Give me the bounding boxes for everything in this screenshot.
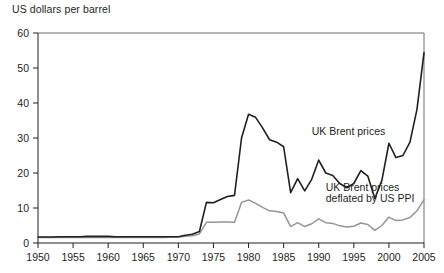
annotation-deflated-line1: UK Brent prices bbox=[326, 181, 400, 193]
x-tick-label: 1995 bbox=[342, 251, 366, 263]
x-tick-label: 1990 bbox=[307, 251, 331, 263]
y-tick-label: 10 bbox=[17, 202, 29, 214]
plot-frame bbox=[38, 33, 424, 243]
y-tick-label: 50 bbox=[17, 62, 29, 74]
x-tick-label: 1960 bbox=[97, 251, 121, 263]
oil-price-chart: US dollars per barrel 010203040506019501… bbox=[0, 0, 444, 273]
y-tick-label: 20 bbox=[17, 167, 29, 179]
x-tick-label: 1965 bbox=[132, 251, 156, 263]
y-tick-label: 0 bbox=[23, 237, 29, 249]
x-tick-label: 1955 bbox=[61, 251, 85, 263]
x-tick-label: 1970 bbox=[167, 251, 191, 263]
chart-plot-area: 0102030405060195019551960196519701975198… bbox=[0, 0, 444, 273]
x-tick-label: 1975 bbox=[202, 251, 226, 263]
y-tick-label: 40 bbox=[17, 97, 29, 109]
x-tick-label: 2000 bbox=[377, 251, 401, 263]
x-tick-label: 1950 bbox=[26, 251, 50, 263]
x-tick-label: 1980 bbox=[237, 251, 261, 263]
annotation-deflated-line2: deflated by US PPI bbox=[326, 192, 415, 204]
y-tick-label: 60 bbox=[17, 27, 29, 39]
series-line-deflated bbox=[38, 200, 424, 238]
annotation-brent-prices: UK Brent prices bbox=[312, 125, 386, 137]
y-tick-label: 30 bbox=[17, 132, 29, 144]
series-line-brent bbox=[38, 53, 424, 237]
x-tick-label: 1985 bbox=[272, 251, 296, 263]
x-tick-label: 2005 bbox=[412, 251, 436, 263]
